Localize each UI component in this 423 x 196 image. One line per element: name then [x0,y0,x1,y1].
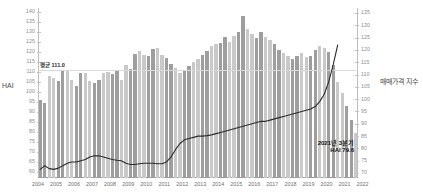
right-tick-label: 70 [361,170,367,175]
x-tick-label: 2021 [338,182,350,187]
right-tick-label: 80 [361,146,367,151]
left-tick-label: 70 [29,149,35,154]
callout-line-2: HAI 79.6 [266,147,354,154]
right-tick-label: 130 [361,23,370,28]
x-tick-label: 2007 [86,182,98,187]
left-tick-label: 130 [26,29,35,34]
x-tick-label: 2010 [140,182,152,187]
left-tick-label: 95 [29,99,35,104]
x-tick-label: 2009 [122,182,134,187]
x-tick-label: 2008 [104,182,116,187]
left-tick-label: 115 [26,59,35,64]
left-tick-label: 90 [29,109,35,114]
right-tick-label: 95 [361,109,367,114]
x-tick-label: 2016 [248,182,260,187]
right-tick-label: 115 [361,60,370,65]
right-tick-label: 110 [361,72,370,77]
left-tick-label: 120 [26,49,35,54]
left-tick-label: 140 [26,9,35,14]
hai-callout: 2021년 3분기 HAI 79.6 [266,140,354,155]
x-tick-label: 2004 [32,182,44,187]
right-tick-label: 100 [361,97,370,102]
left-tick-label: 105 [26,79,35,84]
right-tick-label: 105 [361,84,370,89]
x-tick-label: 2015 [230,182,242,187]
right-tick-label: 85 [361,134,367,139]
x-tick-label: 2013 [194,182,206,187]
x-tick-label: 2014 [212,182,224,187]
x-tick-label: 2011 [158,182,170,187]
left-tick-label: 75 [29,139,35,144]
hai-price-index-chart: HAI 매매가격 지수 1401351301251201151101051009… [0,0,423,196]
x-tick-label: 2017 [266,182,278,187]
x-tick-label: 2006 [68,182,80,187]
left-axis-title: HAI [2,82,14,90]
x-tick-label: 2012 [176,182,188,187]
right-tick-label: 120 [361,47,370,52]
left-tick-label: 65 [29,159,35,164]
left-tick-label: 80 [29,129,35,134]
x-tick-label: 2005 [50,182,62,187]
right-tick-label: 75 [361,158,367,163]
left-tick-label: 125 [26,39,35,44]
left-tick-label: 100 [26,89,35,94]
left-tick-label: 60 [29,169,35,174]
x-tick-label: 2019 [302,182,314,187]
left-tick-label: 85 [29,119,35,124]
plot-area: 1401351301251201151101051009590858075706… [38,8,358,178]
callout-line-1: 2021년 3분기 [266,140,354,147]
x-tick-label: 2022 [357,182,369,187]
left-tick-label: 110 [26,69,35,74]
left-tick-label: 135 [26,19,35,24]
right-tick-label: 125 [361,35,370,40]
right-tick-label: 135 [361,10,370,15]
right-tick-label: 90 [361,121,367,126]
x-tick-label: 2020 [320,182,332,187]
x-tick-label: 2018 [284,182,296,187]
right-axis-title: 매매가격 지수 [380,78,418,86]
